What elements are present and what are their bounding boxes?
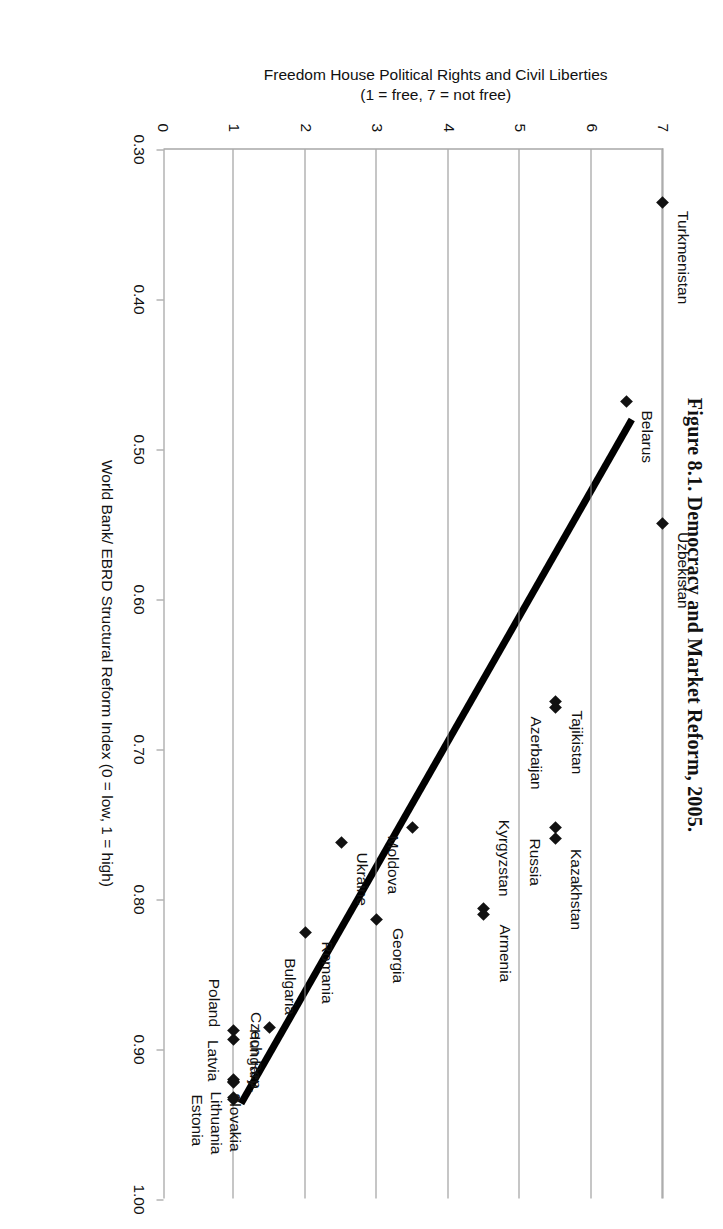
x-tick-label-0.60: 0.60: [129, 584, 147, 614]
gridline-y-7: [661, 149, 662, 1198]
x-tick-label-0.90: 0.90: [129, 1034, 147, 1064]
data-label-georgia: Georgia: [388, 928, 406, 983]
data-point-romania: [298, 926, 311, 939]
data-point-uzbekistan: [656, 516, 669, 529]
x-tick-0.70: [156, 749, 163, 750]
x-tick-0.30: [156, 149, 163, 150]
data-label-uzbekistan: Uzbekistan: [673, 532, 691, 609]
data-label-bulgaria: Bulgaria: [280, 958, 298, 1015]
y-tick-label-3: 3: [367, 123, 385, 132]
plot-area: 012345670.300.400.500.600.700.800.901.00…: [163, 148, 663, 1198]
x-tick-0.50: [156, 449, 163, 450]
gridline-y-2: [304, 149, 305, 1198]
gridline-y-6: [590, 149, 591, 1198]
data-label-russia: Russia: [525, 838, 543, 885]
data-label-armenia: Armenia: [495, 924, 513, 982]
y-tick-label-2: 2: [296, 123, 314, 132]
data-point-georgia: [370, 912, 383, 925]
x-tick-label-0.80: 0.80: [129, 884, 147, 914]
x-tick-label-0.50: 0.50: [129, 434, 147, 464]
data-label-ukraine: Ukraine: [352, 852, 370, 905]
data-point-ukraine: [334, 836, 347, 849]
x-axis-line: [163, 149, 164, 1198]
data-point-latvia: [227, 1023, 240, 1036]
data-label-tajikistan: Tajikistan: [567, 710, 585, 774]
data-point-turkmenistan: [656, 195, 669, 208]
x-tick-label-0.30: 0.30: [129, 134, 147, 164]
x-tick-0.40: [156, 299, 163, 300]
y-tick-label-4: 4: [439, 123, 457, 132]
x-tick-0.90: [156, 1049, 163, 1050]
x-tick-0.60: [156, 599, 163, 600]
y-tick-label-1: 1: [224, 123, 242, 132]
data-label-romania: Romania: [317, 941, 335, 1003]
y-tick-label-0: 0: [153, 123, 171, 132]
x-axis-caption: World Bank/ EBRD Structural Reform Index…: [97, 148, 115, 1198]
data-point-moldova: [406, 821, 419, 834]
data-label-turkmenistan: Turkmenistan: [673, 211, 691, 304]
data-label-slovakia: Slovakia: [225, 1093, 243, 1152]
data-label-latvia: Latvia: [203, 1040, 221, 1081]
figure-page: Figure 8.1. Democracy and Market Reform,…: [0, 0, 723, 1229]
y-axis-caption-line1: Freedom House Political Rights and Civil…: [215, 64, 655, 84]
x-tick-label-0.40: 0.40: [129, 284, 147, 314]
gridline-y-4: [447, 149, 448, 1198]
data-label-lithuania: Lithuania: [206, 1091, 224, 1154]
data-label-kyrgyzstan: Kyrgyzstan: [494, 819, 512, 896]
y-tick-label-6: 6: [582, 123, 600, 132]
gridline-y-3: [375, 149, 376, 1198]
data-label-moldova: Moldova: [383, 835, 401, 894]
y-tick-label-7: 7: [653, 123, 671, 132]
data-label-hungary: Hungary: [245, 1028, 263, 1087]
data-point-belarus: [620, 395, 633, 408]
x-tick-1.00: [156, 1199, 163, 1200]
gridline-y-5: [518, 149, 519, 1198]
y-axis-caption: Freedom House Political Rights and Civil…: [215, 64, 655, 104]
x-tick-label-0.70: 0.70: [129, 734, 147, 764]
data-label-azerbaijan: Azerbaijan: [526, 716, 544, 789]
data-point-kazakhstan: [548, 831, 561, 844]
data-label-belarus: Belarus: [637, 410, 655, 463]
figure-title: Figure 8.1. Democracy and Market Reform,…: [682, 0, 705, 1229]
data-label-poland: Poland: [204, 978, 222, 1026]
data-label-estonia: Estonia: [187, 1094, 205, 1146]
x-tick-label-1.00: 1.00: [129, 1184, 147, 1214]
y-axis-caption-line2: (1 = free, 7 = not free): [215, 84, 655, 104]
x-tick-0.80: [156, 899, 163, 900]
y-tick-label-5: 5: [510, 123, 528, 132]
data-label-kazakhstan: Kazakhstan: [566, 849, 584, 930]
